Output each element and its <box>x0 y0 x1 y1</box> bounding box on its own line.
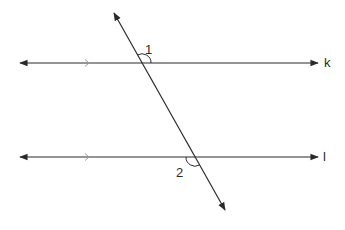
line-k-label: k <box>324 55 331 70</box>
line-k: k <box>20 55 331 70</box>
angle-1-label: 1 <box>145 42 152 57</box>
line-l: l <box>20 149 326 164</box>
transversal <box>114 13 225 210</box>
diagram-canvas: k l 1 2 <box>0 0 345 230</box>
angle-2-label: 2 <box>176 165 183 180</box>
line-l-label: l <box>323 149 326 164</box>
angle-2: 2 <box>176 157 200 180</box>
